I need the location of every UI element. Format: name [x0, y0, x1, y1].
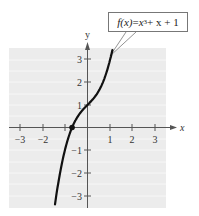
callout-rest: + x + 1	[147, 16, 179, 28]
x-tick-label: −3	[15, 134, 26, 145]
y-tick-label: −2	[71, 168, 82, 179]
y-tick-label: −3	[71, 191, 82, 202]
y-tick-label: 3	[77, 54, 82, 65]
function-graph: −3 −2 1 2 3 3 2 1 −1 −2 −3 x y	[0, 0, 199, 216]
callout-lhs: f(x)	[117, 16, 132, 28]
y-tick-label: 2	[77, 77, 82, 88]
y-tick-label: 1	[77, 100, 82, 111]
y-tick-label: −1	[71, 145, 82, 156]
y-axis-arrow-icon	[85, 42, 90, 50]
x-axis-arrow-icon	[170, 125, 177, 130]
y-axis-label: y	[85, 29, 90, 40]
x-tick-label: −2	[38, 134, 49, 145]
zero-point-marker	[69, 125, 75, 131]
x-tick-label: 2	[130, 134, 135, 145]
function-callout: f(x) = x3 + x + 1	[108, 12, 188, 32]
x-axis-label: x	[179, 122, 185, 133]
x-tick-label: 3	[153, 134, 158, 145]
x-tick-label: 1	[108, 134, 113, 145]
